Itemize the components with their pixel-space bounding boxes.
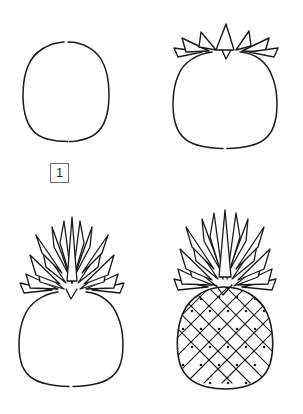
pineapple-body-oval-drawing bbox=[0, 0, 151, 207]
pineapple-with-full-crown-drawing bbox=[0, 207, 151, 414]
step-number-label-1: 1 bbox=[56, 167, 63, 179]
step-number-box-1: 1 bbox=[50, 163, 69, 183]
step-panel-3: 3 bbox=[0, 207, 151, 414]
pineapple-with-short-crown-drawing bbox=[152, 0, 303, 207]
pineapple-finished-with-texture-drawing bbox=[152, 207, 303, 414]
step-panel-4: 4 bbox=[152, 207, 303, 414]
step-panel-1: 1 bbox=[0, 0, 151, 207]
step-panel-2: 2 bbox=[152, 0, 303, 207]
step-number-inner-1: 1 bbox=[52, 165, 67, 181]
tutorial-sheet: 1 bbox=[0, 0, 303, 414]
